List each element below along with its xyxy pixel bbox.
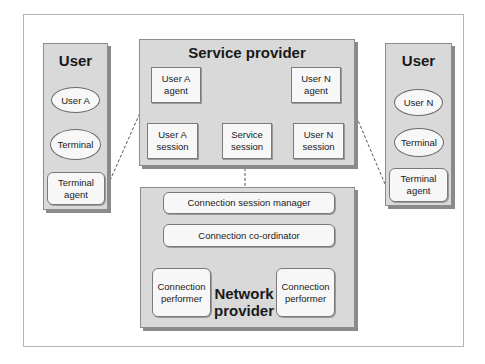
user-a-session: User A session (147, 123, 198, 159)
network-provider-panel: Connection session manager Connection co… (140, 187, 355, 328)
left-terminal-agent: Terminal agent (47, 172, 105, 205)
right-terminal-agent: Terminal agent (389, 168, 448, 202)
service-provider-title: Service provider (140, 44, 354, 61)
right-terminal-node: Terminal (394, 128, 444, 157)
service-provider-panel: Service provider User A agent User N age… (139, 39, 355, 166)
connection-performer-right: Connection performer (276, 268, 335, 317)
left-terminal-node: Terminal (50, 129, 101, 160)
right-user-title: User (386, 52, 451, 69)
connection-coordinator: Connection co-ordinator (163, 224, 335, 247)
right-user-panel: User User N Terminal Terminal agent (385, 43, 452, 206)
user-n-agent: User N agent (291, 67, 341, 103)
service-session: Service session (222, 123, 272, 159)
network-provider-title: Network provider (211, 285, 277, 319)
user-a-node: User A (51, 87, 100, 113)
connection-session-manager: Connection session manager (163, 192, 335, 214)
left-user-panel: User User A Terminal Terminal agent (43, 43, 108, 210)
user-n-session: User N session (293, 123, 344, 159)
user-n-node: User N (394, 89, 443, 116)
connection-performer-left: Connection performer (152, 268, 211, 317)
left-user-title: User (44, 52, 107, 69)
user-a-agent: User A agent (151, 67, 201, 103)
